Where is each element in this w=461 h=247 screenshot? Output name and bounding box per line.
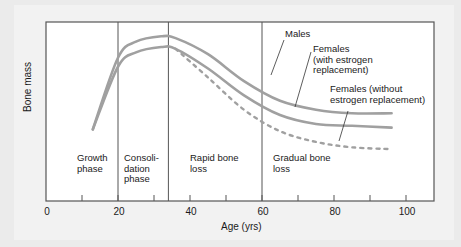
x-tick-label: 80 (329, 206, 340, 217)
y-axis-title: Bone mass (22, 62, 33, 112)
annotation-females-with-estrogen: Females (with estrogen replacement) (313, 44, 373, 76)
phase-label-rapid-loss: Rapid bone loss (190, 153, 239, 174)
phase-label-line: phase (77, 164, 108, 175)
phase-label-line: loss (190, 164, 239, 175)
phase-label-line: Gradual bone (273, 153, 331, 164)
phase-label-gradual-loss: Gradual bone loss (273, 153, 331, 174)
x-tick-label: 40 (185, 206, 196, 217)
chart-plot (0, 0, 461, 247)
annotation-line: estrogen replacement) (330, 95, 425, 106)
annotation-line: replacement) (313, 65, 373, 76)
x-tick-label: 60 (257, 206, 268, 217)
annotation-line: Females (313, 44, 373, 55)
phase-label-consolidation: Consoli- dation phase (124, 153, 159, 185)
annotation-line: Females (without (330, 84, 425, 95)
phase-label-line: Growth (77, 153, 108, 164)
phase-label-growth: Growth phase (77, 153, 108, 174)
x-tick-label: 100 (399, 206, 416, 217)
x-tick-label: 20 (113, 206, 124, 217)
plot-frame (46, 22, 434, 201)
phase-label-line: loss (273, 164, 331, 175)
x-tick-label: 0 (44, 206, 50, 217)
phase-label-line: Consoli- (124, 153, 159, 164)
phase-label-line: phase (124, 174, 159, 185)
annotation-females-without-estrogen: Females (without estrogen replacement) (330, 84, 425, 105)
phase-label-line: Rapid bone (190, 153, 239, 164)
x-axis-title: Age (yrs) (221, 221, 262, 232)
annotation-males: Males (285, 29, 310, 40)
annotation-line: Males (285, 29, 310, 40)
